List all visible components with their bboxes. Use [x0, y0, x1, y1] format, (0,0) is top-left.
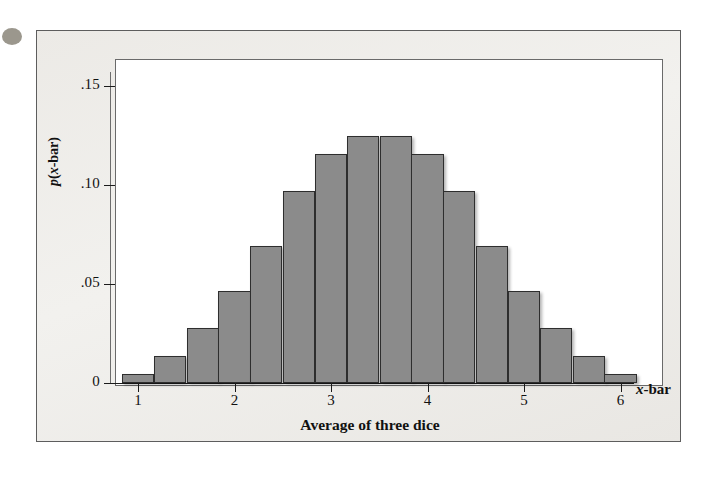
x-axis-line [110, 383, 634, 384]
histogram-bar [573, 356, 605, 384]
histogram-bar [347, 136, 379, 384]
histogram-bar [283, 191, 315, 384]
histogram-bar [443, 191, 475, 384]
x-tick-mark [235, 383, 236, 392]
y-axis-title: p(x-bar) [46, 137, 62, 186]
histogram-bar [187, 328, 219, 383]
x-tick-label: 2 [222, 392, 248, 409]
x-tick-mark [138, 383, 139, 392]
histogram-bar [250, 246, 282, 383]
x-tick-mark [524, 383, 525, 392]
histogram-bar [476, 246, 508, 383]
x-axis-title: Average of three dice [210, 416, 530, 434]
y-tick-label: .05 [56, 274, 100, 291]
y-tick-label: .10 [56, 175, 100, 192]
x-tick-mark [621, 383, 622, 392]
x-tick-label: 1 [125, 392, 151, 409]
histogram-bar [218, 291, 250, 383]
y-tick-mark [104, 284, 115, 285]
histogram-bar [154, 356, 186, 384]
y-tick-label: 0 [56, 373, 100, 390]
histogram-bar [315, 154, 347, 383]
x-tick-mark [331, 383, 332, 392]
y-tick-label: .15 [56, 76, 100, 93]
x-tick-label: 6 [608, 392, 634, 409]
histogram-bar [380, 136, 412, 384]
x-variable-label: x-bar [636, 381, 671, 398]
histogram-bar [122, 374, 154, 383]
y-axis-line [110, 72, 111, 384]
y-tick-mark [104, 86, 115, 87]
histogram-bar [604, 374, 636, 383]
histogram-plot: 0.05.10.15 123456 p(x-bar) Average of th… [0, 0, 715, 477]
histogram-bar [508, 291, 540, 383]
y-tick-mark [104, 185, 115, 186]
x-tick-label: 4 [415, 392, 441, 409]
x-tick-mark [428, 383, 429, 392]
x-tick-label: 3 [318, 392, 344, 409]
histogram-bar [411, 154, 443, 383]
x-tick-label: 5 [511, 392, 537, 409]
histogram-bar [540, 328, 572, 383]
y-tick-mark [104, 383, 115, 384]
